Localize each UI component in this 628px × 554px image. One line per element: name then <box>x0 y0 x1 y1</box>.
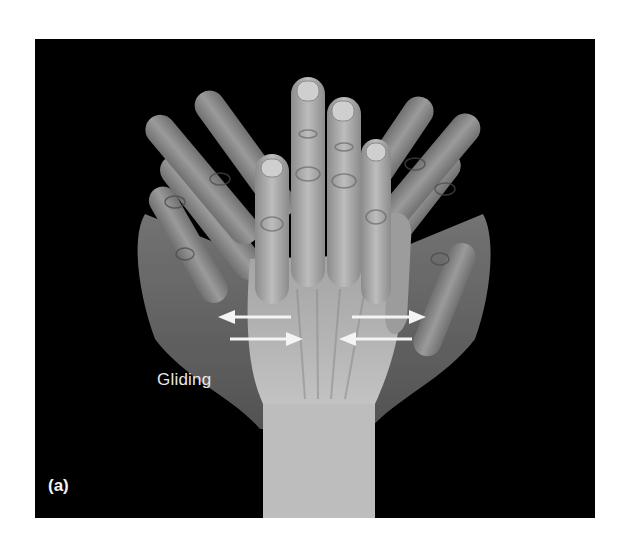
figure-panel: Gliding (a) <box>35 39 595 518</box>
panel-label: (a) <box>48 476 69 496</box>
hand-photo <box>35 39 595 518</box>
motion-label: Gliding <box>157 370 211 390</box>
